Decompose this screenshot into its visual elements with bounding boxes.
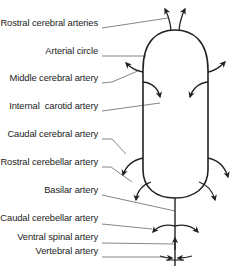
middle-cerebral-left-arrow (126, 63, 143, 72)
label-basilar-artery: Basilar artery (44, 184, 98, 195)
label-rostral-cerebellar-artery: Rostral cerebellar artery (0, 156, 98, 167)
middle-cerebral-right-arrow (208, 62, 225, 72)
rostral-cerebral-right-arrow (179, 9, 185, 30)
leader-middle-cerebral (102, 70, 140, 83)
leader-caudal-cerebellar (102, 224, 152, 229)
leader-caudal-cerebral (102, 139, 126, 154)
internal-carotid-left-arrow (143, 82, 160, 97)
vertebral-left-arrow (160, 256, 172, 258)
caudal-cerebral-right-arrow (208, 158, 228, 177)
label-vertebral-artery: Vertebral artery (36, 245, 99, 256)
label-caudal-cerebellar-artery: Caudal cerebellar artery (0, 212, 98, 223)
label-middle-cerebral-artery: Middle cerebral artery (10, 72, 98, 83)
label-ventral-spinal-artery: Ventral spinal artery (17, 231, 98, 242)
internal-carotid-right-arrow (190, 82, 208, 97)
rostral-cerebral-left-arrow (165, 9, 171, 30)
leader-rostral-cerebellar (102, 167, 132, 182)
leader-internal-carotid (102, 103, 160, 111)
rostral-cerebellar-right-arrow (199, 182, 215, 200)
label-caudal-cerebral-artery: Caudal cerebral artery (7, 128, 98, 139)
leader-rostral-cerebral (102, 18, 168, 28)
leader-lines (102, 18, 175, 257)
arterial-circle-shape (143, 30, 208, 198)
leader-ventral-spinal (102, 243, 175, 244)
caudal-cerebral-left-arrow (123, 158, 143, 175)
rostral-cerebellar-left-arrow (136, 182, 151, 200)
caudal-cerebellar-right-arrow (175, 225, 198, 232)
caudal-cerebellar-left-arrow (153, 225, 175, 232)
label-internal-carotid-artery: Internal carotid artery (9, 100, 98, 111)
label-arterial-circle: Arterial circle (45, 45, 98, 56)
label-rostral-cerebral-arteries: Rostral cerebral arteries (0, 17, 98, 28)
vertebral-right-arrow (178, 256, 192, 258)
